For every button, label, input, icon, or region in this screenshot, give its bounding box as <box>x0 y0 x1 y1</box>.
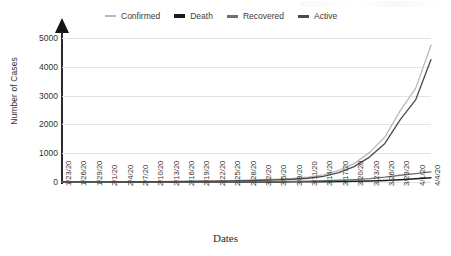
x-tick-label: 3/23/20 <box>373 161 381 186</box>
y-tick-label: 5000 <box>14 34 58 43</box>
legend-item-recovered[interactable]: Recovered <box>227 12 284 21</box>
x-tick-label: 1/23/20 <box>65 161 73 186</box>
legend-label: Death <box>190 12 213 21</box>
y-tick-label: 3000 <box>14 92 58 101</box>
x-tick-label: 2/4/20 <box>127 165 135 186</box>
y-tick-label: 1000 <box>14 149 58 158</box>
legend-label: Active <box>314 12 337 21</box>
legend-swatch-icon <box>227 15 238 18</box>
x-tick-label: 4/4/20 <box>434 165 442 186</box>
x-tick-label: 2/28/20 <box>250 161 258 186</box>
x-tick-label: 2/25/20 <box>234 161 242 186</box>
legend-swatch-icon <box>298 15 309 18</box>
x-tick-label: 3/14/20 <box>326 161 334 186</box>
scan-artifact <box>300 1 440 7</box>
legend-label: Recovered <box>243 12 284 21</box>
legend-item-death[interactable]: Death <box>174 12 213 21</box>
x-tick-label: 3/2/20 <box>265 165 273 186</box>
x-axis-tick-labels: 1/23/201/26/201/29/202/1/202/4/202/7/202… <box>62 186 431 232</box>
legend-swatch-icon <box>105 15 116 17</box>
covid-cases-line-chart: ConfirmedDeathRecoveredActive 0100020003… <box>0 0 451 256</box>
legend-label: Confirmed <box>121 12 160 21</box>
y-tick-label: 4000 <box>14 63 58 72</box>
legend-item-active[interactable]: Active <box>298 12 337 21</box>
x-axis-title: Dates <box>0 232 451 244</box>
y-axis-title: Number of Cases <box>9 41 19 141</box>
x-tick-label: 1/26/20 <box>80 161 88 186</box>
y-tick-label: 0 <box>14 178 58 187</box>
x-tick-label: 3/29/20 <box>403 161 411 186</box>
x-tick-label: 2/22/20 <box>219 161 227 186</box>
x-tick-label: 2/13/20 <box>173 161 181 186</box>
x-tick-label: 2/16/20 <box>188 161 196 186</box>
x-tick-label: 3/11/20 <box>311 161 319 186</box>
x-tick-label: 2/1/20 <box>111 165 119 186</box>
legend-item-confirmed[interactable]: Confirmed <box>105 12 160 21</box>
x-tick-label: 1/29/20 <box>96 161 104 186</box>
x-tick-label: 3/26/20 <box>388 161 396 186</box>
x-tick-label: 2/7/20 <box>142 165 150 186</box>
x-tick-label: 3/5/20 <box>280 165 288 186</box>
x-tick-label: 2/19/20 <box>203 161 211 186</box>
chart-legend: ConfirmedDeathRecoveredActive <box>105 9 337 23</box>
x-tick-label: 2/10/20 <box>157 161 165 186</box>
legend-swatch-icon <box>174 14 185 18</box>
x-tick-label: 3/8/20 <box>296 165 304 186</box>
x-tick-label: 3/17/20 <box>342 161 350 186</box>
y-tick-label: 2000 <box>14 120 58 129</box>
x-tick-label: 4/1/20 <box>419 165 427 186</box>
x-tick-label: 3/20/20 <box>357 161 365 186</box>
